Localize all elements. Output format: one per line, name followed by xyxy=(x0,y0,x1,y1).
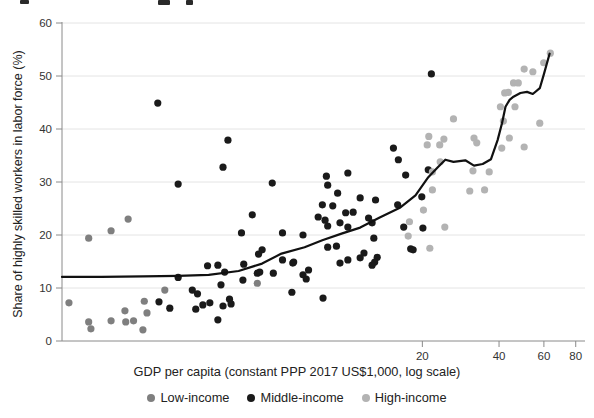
data-point xyxy=(469,167,476,174)
data-point xyxy=(141,298,148,305)
x-tick-label: 80 xyxy=(569,350,582,362)
data-point xyxy=(410,246,417,253)
data-point xyxy=(143,309,150,316)
data-point xyxy=(357,194,364,201)
data-point xyxy=(214,262,221,269)
data-point xyxy=(450,115,457,122)
data-point xyxy=(279,229,286,236)
data-point xyxy=(400,223,407,230)
data-point xyxy=(505,89,512,96)
data-point xyxy=(303,275,310,282)
y-tick-label: 40 xyxy=(39,123,52,135)
legend: Low-income Middle-income High-income xyxy=(0,390,594,405)
data-point xyxy=(344,169,351,176)
x-tick-label: 60 xyxy=(537,350,550,362)
data-point xyxy=(336,259,343,266)
data-point xyxy=(206,299,213,306)
data-point xyxy=(121,307,128,314)
data-point xyxy=(481,186,488,193)
y-tick-label: 20 xyxy=(39,229,52,241)
data-point xyxy=(402,172,409,179)
data-point xyxy=(217,281,224,288)
data-point xyxy=(324,182,331,189)
data-point xyxy=(122,318,129,325)
data-point xyxy=(420,206,427,213)
data-point xyxy=(319,201,326,208)
data-point xyxy=(429,186,436,193)
data-point xyxy=(344,223,351,230)
data-point xyxy=(319,294,326,301)
data-point xyxy=(406,218,413,225)
x-tick-label: 20 xyxy=(416,350,429,362)
data-point xyxy=(336,219,343,226)
data-point xyxy=(441,223,448,230)
data-point xyxy=(204,262,211,269)
data-point xyxy=(269,179,276,186)
data-point xyxy=(227,300,234,307)
y-tick-label: 30 xyxy=(39,176,52,188)
data-point xyxy=(405,232,412,239)
data-point xyxy=(155,298,162,305)
data-point xyxy=(342,209,349,216)
data-point xyxy=(324,222,331,229)
data-point xyxy=(139,326,146,333)
data-point xyxy=(357,254,364,261)
data-point xyxy=(486,168,493,175)
data-point xyxy=(256,269,263,276)
data-point xyxy=(290,258,297,265)
data-point xyxy=(425,133,432,140)
data-point xyxy=(279,256,286,263)
legend-label: Middle-income xyxy=(260,390,343,405)
low-income-dot-icon xyxy=(147,394,155,402)
data-point xyxy=(315,213,322,220)
data-point xyxy=(529,68,536,75)
x-axis-title: GDP per capita (constant PPP 2017 US$1,0… xyxy=(0,364,594,379)
data-point xyxy=(511,103,518,110)
data-point xyxy=(219,164,226,171)
data-point xyxy=(85,318,92,325)
middle-income-dot-icon xyxy=(247,394,255,402)
data-point xyxy=(254,280,261,287)
data-point xyxy=(428,70,435,77)
data-point xyxy=(270,270,277,277)
data-point xyxy=(498,144,505,151)
data-point xyxy=(436,141,443,148)
y-tick-label: 50 xyxy=(39,70,52,82)
legend-item-middle-income: Middle-income xyxy=(247,390,343,405)
data-point xyxy=(419,225,426,232)
data-point xyxy=(323,173,330,180)
data-point xyxy=(466,187,473,194)
data-point xyxy=(194,290,201,297)
data-point xyxy=(166,305,173,312)
legend-label: High-income xyxy=(375,390,447,405)
y-tick-label: 10 xyxy=(39,282,52,294)
y-tick-label: 60 xyxy=(39,17,52,29)
data-point xyxy=(521,66,528,73)
data-point xyxy=(249,211,256,218)
data-point xyxy=(395,156,402,163)
data-point xyxy=(370,235,377,242)
data-point xyxy=(440,135,447,142)
data-point xyxy=(214,316,221,323)
data-point xyxy=(192,306,199,313)
data-point xyxy=(329,202,336,209)
data-point xyxy=(130,317,137,324)
high-income-dot-icon xyxy=(362,394,370,402)
data-point xyxy=(521,143,528,150)
y-tick-label: 0 xyxy=(46,335,52,347)
data-point xyxy=(515,79,522,86)
x-tick-label: 40 xyxy=(493,350,506,362)
data-point xyxy=(65,299,72,306)
data-point xyxy=(369,262,376,269)
data-point xyxy=(334,190,341,197)
legend-label: Low-income xyxy=(160,390,229,405)
data-point xyxy=(350,209,357,216)
data-point xyxy=(418,193,425,200)
trend-line xyxy=(62,54,550,277)
data-point xyxy=(333,243,340,250)
data-point xyxy=(288,289,295,296)
data-point xyxy=(344,256,351,263)
figure: 010203040506020406080 Share of highly sk… xyxy=(0,0,594,418)
data-point xyxy=(239,276,246,283)
data-point xyxy=(154,99,161,106)
